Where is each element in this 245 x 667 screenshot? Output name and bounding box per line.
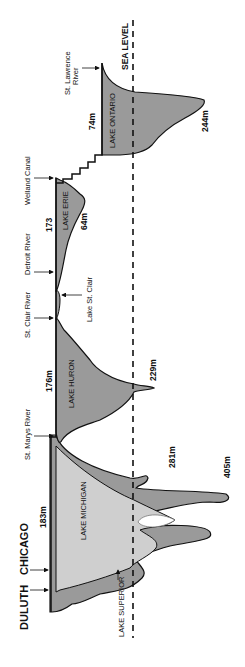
lake-erie-depth: 64m [79,213,89,230]
sea-level-label: SEA LEVEL [120,23,130,70]
lake-st-clair-label: Lake St. Clair [85,276,94,322]
st-lawrence-label-2: River [71,67,80,85]
lake-huron-surface: 176m [44,370,54,392]
detroit-river-label: Detroit River [23,233,32,275]
lake-ontario-shape [102,63,204,155]
lake-ontario-label: LAKE ONTARIO [108,93,117,148]
lake-michigan-label: LAKE MICHIGAN [79,481,88,540]
lake-michigan-surface: 183m [38,506,48,528]
chicago-label: CHICAGO [18,523,30,575]
lake-ontario-surface: 74m [87,113,97,130]
lake-superior-depth: 405m [222,456,232,478]
lake-huron-depth: 229m [148,359,158,381]
lake-huron-label: LAKE HURON [67,359,76,408]
st-clair-river-label: St. Clair River [23,291,32,338]
lake-michigan-depth: 281m [167,446,177,468]
st-marys-river-label: St. Marys River [23,408,32,460]
lake-ontario-depth: 244m [200,110,210,132]
great-lakes-profile-diagram: SEA LEVEL St. Lawrence River 74m LAKE ON… [0,0,245,667]
lake-erie-surface: 173 [44,218,54,232]
lake-superior-label: LAKE SUPERIOR [117,576,126,637]
welland-canal-label: Welland Canal [23,156,32,205]
lake-erie-label: LAKE ERIE [61,191,70,230]
duluth-label: DULUTH [18,585,30,630]
